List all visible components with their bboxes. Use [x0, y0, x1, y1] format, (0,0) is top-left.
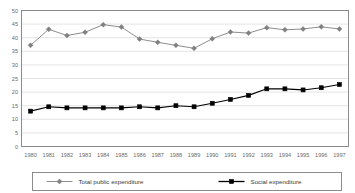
x-axis-tick-label: 1993 — [261, 152, 273, 158]
x-axis-tick-label: 1981 — [43, 152, 55, 158]
series-data-point — [119, 25, 124, 30]
x-axis-tick-label: 1995 — [297, 152, 309, 158]
y-axis-tick-label: 5 — [15, 130, 18, 136]
y-axis-tick-label: 35 — [12, 48, 18, 54]
x-axis-tick-label: 1986 — [133, 152, 145, 158]
series-data-point — [265, 87, 269, 91]
series-data-point — [210, 36, 215, 41]
y-axis-tick-label: 15 — [12, 103, 18, 109]
x-axis-tick-label: 1988 — [170, 152, 182, 158]
series-data-point — [155, 40, 160, 45]
chart-figure: 0510152025303540455019801981198219831984… — [0, 0, 355, 193]
y-axis-tick-label: 10 — [12, 116, 18, 122]
series-data-point — [47, 105, 51, 109]
y-axis-tick-label: 30 — [12, 62, 18, 68]
x-axis-tick-label: 1985 — [115, 152, 127, 158]
y-axis-tick-label: 40 — [12, 35, 18, 41]
x-axis-tick-label: 1990 — [206, 152, 218, 158]
x-axis-tick-label: 1994 — [279, 152, 291, 158]
legend-label: Social expenditure — [251, 178, 302, 185]
legend-label: Total public expenditure — [79, 178, 145, 185]
series-data-point — [29, 109, 33, 113]
series-data-point — [101, 106, 105, 110]
series-data-point — [301, 88, 305, 92]
series-data-point — [83, 30, 88, 35]
x-axis-tick-label: 1984 — [97, 152, 109, 158]
y-axis-tick-label: 25 — [12, 76, 18, 82]
legend-sample-marker — [57, 179, 62, 184]
series-line — [31, 25, 340, 49]
series-data-point — [337, 26, 342, 31]
y-axis-tick-label: 0 — [15, 144, 18, 150]
series-data-point — [264, 25, 269, 30]
series-data-point — [319, 86, 323, 90]
series-data-point — [319, 24, 324, 29]
x-axis-tick-label: 1991 — [224, 152, 236, 158]
series-data-point — [301, 26, 306, 31]
series-data-point — [192, 105, 196, 109]
series-data-point — [210, 101, 214, 105]
series-data-point — [119, 106, 123, 110]
series-data-point — [138, 105, 142, 109]
series-data-point — [247, 93, 251, 97]
series-data-point — [282, 27, 287, 32]
series-data-point — [83, 106, 87, 110]
x-axis-tick-label: 1996 — [315, 152, 327, 158]
x-axis-tick-label: 1982 — [61, 152, 73, 158]
series-data-point — [137, 37, 142, 42]
series-data-point — [173, 43, 178, 48]
y-axis-tick-label: 20 — [12, 89, 18, 95]
series-data-point — [228, 29, 233, 34]
y-axis-tick-label: 50 — [12, 8, 18, 14]
x-axis-tick-label: 1980 — [24, 152, 36, 158]
series-data-point — [174, 104, 178, 108]
x-axis-tick-label: 1997 — [333, 152, 345, 158]
legend-sample-marker — [230, 180, 234, 184]
series-data-point — [192, 46, 197, 51]
series-data-point — [64, 33, 69, 38]
series-data-point — [65, 106, 69, 110]
series-line — [31, 84, 340, 111]
series-data-point — [228, 97, 232, 101]
x-axis-tick-label: 1987 — [152, 152, 164, 158]
series-data-point — [246, 31, 251, 36]
series-data-point — [156, 106, 160, 110]
x-axis-tick-label: 1992 — [242, 152, 254, 158]
series-data-point — [101, 22, 106, 27]
y-axis-tick-label: 45 — [12, 21, 18, 27]
expenditure-line-chart: 0510152025303540455019801981198219831984… — [0, 0, 355, 193]
x-axis-tick-label: 1983 — [79, 152, 91, 158]
series-data-point — [337, 82, 341, 86]
x-axis-tick-label: 1989 — [188, 152, 200, 158]
series-data-point — [283, 87, 287, 91]
